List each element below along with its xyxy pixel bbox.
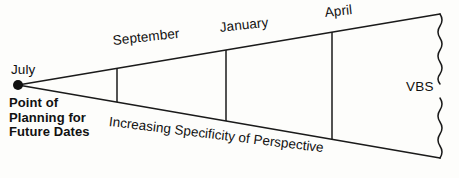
apex-caption: Point of Planning for Future Dates [9,96,90,140]
milestone-label-april: April [324,2,353,20]
milestone-label-july: July [11,62,35,77]
diagram-canvas: July September January April VBS Increas… [0,0,459,178]
apex-caption-line-1: Point of [9,96,90,111]
right-edge-wavy-upper [438,14,442,84]
right-edge-wavy-lower [438,98,442,158]
apex-dot [13,80,23,90]
vbs-label: VBS [406,79,434,94]
apex-caption-line-3: Future Dates [9,125,90,140]
apex-caption-line-2: Planning for [9,111,90,126]
